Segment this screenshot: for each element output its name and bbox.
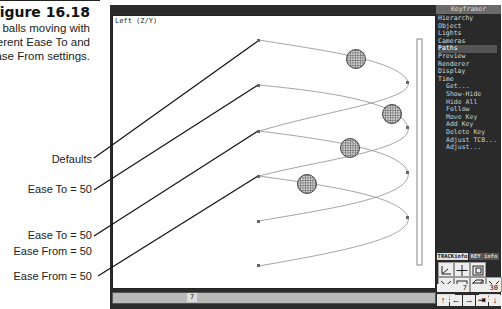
move-icon — [455, 264, 469, 277]
animated-balls — [298, 50, 402, 194]
frame-slider-thumb[interactable]: 7 — [187, 293, 197, 302]
ball-ease-to — [383, 105, 402, 124]
next-frame-button[interactable]: → — [463, 295, 475, 306]
motion-paths — [259, 40, 408, 266]
zoom-region-button[interactable] — [470, 262, 486, 277]
command-panel: Keyframer Hierarchy Object Lights Camera… — [436, 5, 501, 309]
fast-forward-icon: ⇥ — [478, 295, 486, 305]
panel-header: Keyframer — [436, 5, 501, 14]
down-arrow-icon: ↓ — [493, 295, 498, 305]
first-frame-button[interactable]: ↑ — [437, 295, 449, 306]
tab-key-info[interactable]: KEY info — [469, 253, 499, 260]
left-arrow-icon: ← — [452, 295, 461, 305]
keyframe-dots — [257, 39, 409, 267]
ball-defaults — [347, 50, 366, 69]
last-frame-button[interactable]: ↓ — [489, 295, 501, 306]
prev-frame-button[interactable]: ← — [450, 295, 462, 306]
up-arrow-icon: ↑ — [441, 295, 446, 305]
right-arrow-icon: → — [465, 295, 474, 305]
viewport-scroll-slider — [417, 39, 422, 265]
ball-ease-to-from — [341, 139, 360, 158]
move-button[interactable] — [454, 262, 470, 277]
frame-slider[interactable]: 7 — [112, 292, 436, 304]
axis-button[interactable] — [438, 262, 454, 277]
axis-icon — [439, 264, 453, 277]
zoom-region-icon — [471, 264, 485, 277]
tab-track-info[interactable]: TRACKinfo — [437, 253, 468, 260]
submenu-item-adjust[interactable]: Adjust... — [438, 144, 497, 152]
callout-leaders — [94, 41, 258, 276]
current-frame-field[interactable]: 7 — [437, 284, 469, 292]
ball-ease-from — [298, 175, 317, 194]
main-menu: Hierarchy Object Lights Cameras Paths Pr… — [438, 15, 497, 152]
total-frames-field[interactable]: 30 — [471, 284, 500, 292]
play-button[interactable]: ⇥ — [476, 295, 488, 306]
